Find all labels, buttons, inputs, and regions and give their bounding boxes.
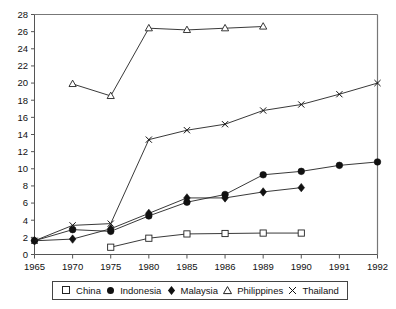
series-line bbox=[35, 83, 378, 241]
y-axis-tick-label: 2 bbox=[23, 232, 28, 243]
data-point-cross-icon bbox=[146, 137, 152, 143]
data-point-filled-circle-icon bbox=[260, 171, 267, 178]
series-philippines bbox=[69, 23, 267, 99]
y-axis-tick-label: 6 bbox=[23, 197, 28, 208]
data-point-open-square-icon bbox=[184, 231, 190, 237]
legend-item-label: Indonesia bbox=[120, 285, 161, 296]
data-point-open-square-icon bbox=[222, 230, 228, 236]
series-indonesia bbox=[31, 159, 381, 244]
legend-item-label: Philippines bbox=[237, 285, 283, 296]
x-axis-tick-label: 1965 bbox=[24, 261, 45, 272]
series-line bbox=[35, 162, 378, 241]
y-axis-tick-label: 8 bbox=[23, 180, 28, 191]
series-thailand bbox=[31, 80, 380, 244]
legend-item-thailand[interactable]: Thailand bbox=[287, 285, 338, 296]
data-point-open-triangle-icon bbox=[69, 80, 76, 86]
y-axis-tick-label: 26 bbox=[17, 26, 28, 37]
data-point-open-triangle-icon bbox=[183, 26, 190, 32]
legend-item-label: Thailand bbox=[302, 285, 338, 296]
x-axis-tick-label: 1970 bbox=[62, 261, 83, 272]
data-point-filled-circle-icon bbox=[374, 159, 381, 166]
x-axis-tick-label: 1975 bbox=[100, 261, 121, 272]
legend-marker-cross-icon bbox=[287, 285, 298, 296]
data-point-filled-circle-icon bbox=[298, 168, 305, 175]
y-axis-tick-label: 0 bbox=[23, 249, 28, 260]
data-point-open-triangle-icon bbox=[260, 23, 267, 29]
x-axis-tick-label: 1990 bbox=[291, 261, 312, 272]
legend-item-china[interactable]: China bbox=[61, 285, 101, 296]
line-chart: 0246810121416182022242628196519701975198… bbox=[0, 0, 396, 309]
x-axis-tick-label: 1985 bbox=[176, 261, 197, 272]
series-china bbox=[108, 230, 305, 250]
x-axis-tick-label: 1980 bbox=[138, 261, 159, 272]
chart-legend: ChinaIndonesiaMalaysiaPhilippinesThailan… bbox=[52, 281, 348, 300]
legend-item-malaysia[interactable]: Malaysia bbox=[166, 285, 219, 296]
data-point-filled-diamond-icon bbox=[69, 235, 76, 243]
data-point-open-square-icon bbox=[108, 244, 114, 250]
y-axis-tick-label: 18 bbox=[17, 95, 28, 106]
y-axis-tick-label: 12 bbox=[17, 146, 28, 157]
legend-marker-filled-circle-icon bbox=[105, 285, 116, 296]
x-axis-tick-label: 1991 bbox=[329, 261, 350, 272]
data-point-open-triangle-icon bbox=[221, 24, 228, 30]
y-axis-tick-label: 28 bbox=[17, 9, 28, 20]
y-axis-tick-label: 20 bbox=[17, 77, 28, 88]
x-axis-tick-label: 1992 bbox=[367, 261, 388, 272]
y-axis-tick-label: 16 bbox=[17, 112, 28, 123]
series-line bbox=[111, 233, 302, 247]
legend-item-philippines[interactable]: Philippines bbox=[222, 285, 283, 296]
data-point-cross-icon bbox=[336, 91, 342, 97]
data-point-filled-diamond-icon bbox=[260, 188, 267, 196]
data-point-open-square-icon bbox=[146, 235, 152, 241]
y-axis-tick-label: 24 bbox=[17, 43, 28, 54]
data-point-filled-diamond-icon bbox=[298, 183, 305, 191]
x-axis-tick-label: 1989 bbox=[253, 261, 274, 272]
y-axis-tick-label: 10 bbox=[17, 163, 28, 174]
chart-canvas: 0246810121416182022242628196519701975198… bbox=[0, 0, 396, 309]
y-axis-tick-label: 22 bbox=[17, 60, 28, 71]
legend-item-label: China bbox=[76, 285, 101, 296]
y-axis-tick-label: 14 bbox=[17, 129, 28, 140]
legend-marker-filled-diamond-icon bbox=[166, 285, 177, 296]
data-point-filled-circle-icon bbox=[336, 162, 343, 169]
legend-item-indonesia[interactable]: Indonesia bbox=[105, 285, 161, 296]
data-point-open-square-icon bbox=[298, 230, 304, 236]
legend-marker-open-square-icon bbox=[61, 285, 72, 296]
data-point-open-square-icon bbox=[260, 230, 266, 236]
legend-item-label: Malaysia bbox=[181, 285, 219, 296]
data-point-open-triangle-icon bbox=[145, 24, 152, 30]
legend-marker-open-triangle-icon bbox=[222, 285, 233, 296]
series-line bbox=[73, 27, 264, 96]
x-axis-tick-label: 1986 bbox=[214, 261, 235, 272]
y-axis-tick-label: 4 bbox=[23, 215, 28, 226]
